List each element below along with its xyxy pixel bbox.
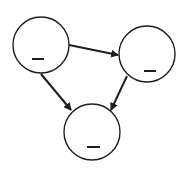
- directed-graph: [0, 0, 183, 176]
- node-circle: [119, 26, 175, 82]
- nodes-group: [13, 17, 175, 160]
- edge-a-to-b-arrow: [69, 45, 118, 55]
- node-circle: [13, 17, 69, 73]
- node-circle: [64, 104, 120, 160]
- node-a: [13, 17, 69, 73]
- diagram-canvas: [0, 0, 183, 176]
- node-c: [64, 104, 120, 160]
- edge-b-to-c-arrow: [111, 76, 127, 110]
- edge-a-to-c-arrow: [41, 74, 71, 110]
- node-b: [119, 26, 175, 82]
